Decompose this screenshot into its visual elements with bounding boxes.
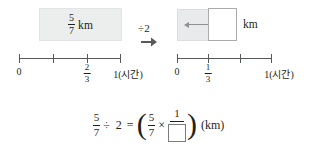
equation-row: 5 7 ÷ 2 = ( 5 7 × 1 ) (km) <box>0 108 317 142</box>
left-tick-0 <box>19 54 20 63</box>
left-bar-fraction: 5 7 <box>68 13 75 37</box>
left-bar-fraction-denominator: 7 <box>68 25 75 37</box>
left-arrow-icon <box>184 22 189 28</box>
equation-lhs-fraction: 5 7 <box>93 112 101 138</box>
right-arrow-icon <box>140 36 158 48</box>
equation-times-symbol: × <box>158 118 165 133</box>
equation-divide-symbol: ÷ <box>103 118 110 133</box>
worksheet-figure: 5 7 km 0 2 3 1(시간) ÷2 km <box>0 0 317 158</box>
left-bar-unit: km <box>78 19 93 31</box>
right-label-one-third: 1 3 <box>205 63 212 85</box>
right-tick-1 <box>271 54 272 63</box>
left-arrow-shaft <box>186 24 208 25</box>
right-label-1-hour: 1(시간) <box>264 66 294 81</box>
equation-rhs-answer-numerator: 1 <box>170 108 184 122</box>
equation-unit: (km) <box>201 118 224 133</box>
right-tick-0 <box>177 54 178 63</box>
left-bar-content: 5 7 km <box>68 13 93 37</box>
left-label-two-thirds-fraction: 2 3 <box>84 63 91 85</box>
equation-rhs-numerator: 5 <box>148 112 156 126</box>
right-number-line-axis <box>177 58 272 59</box>
left-tick-1 <box>120 54 121 63</box>
right-label-one-third-numerator: 1 <box>205 63 212 74</box>
left-bar-fraction-numerator: 5 <box>68 13 75 26</box>
left-label-1-hour: 1(시간) <box>113 66 143 81</box>
equation-divisor: 2 <box>116 118 122 133</box>
equation-rhs-answer-denominator-box[interactable] <box>168 124 186 142</box>
equation-lhs-numerator: 5 <box>93 112 101 126</box>
left-label-two-thirds-denominator: 3 <box>84 74 91 84</box>
equation-lhs-denominator: 7 <box>93 126 101 139</box>
right-number-line: 0 1 3 1(시간) <box>177 50 272 66</box>
right-label-one-third-denominator: 3 <box>205 74 212 84</box>
equation-rhs-fraction: 5 7 <box>148 112 156 138</box>
right-tick-two-thirds <box>240 54 241 63</box>
equation-rhs-answer-fraction: 1 <box>168 108 186 142</box>
left-tick-one-third <box>53 54 54 63</box>
left-label-0: 0 <box>17 66 22 77</box>
right-label-0: 0 <box>175 66 180 77</box>
left-quantity-bar: 5 7 km <box>39 8 122 41</box>
divide-by-two-label: ÷2 <box>138 22 150 34</box>
right-label-one-third-fraction: 1 3 <box>205 63 212 85</box>
equation-equals-symbol: = <box>127 118 134 133</box>
left-label-two-thirds-numerator: 2 <box>84 63 91 74</box>
equation-rhs-denominator: 7 <box>148 126 156 139</box>
right-bar-unit: km <box>243 18 258 30</box>
right-bar-answer-box[interactable] <box>208 8 237 41</box>
left-label-two-thirds: 2 3 <box>84 63 91 85</box>
left-number-line: 0 2 3 1(시간) <box>19 50 121 66</box>
left-number-line-axis <box>19 58 121 59</box>
